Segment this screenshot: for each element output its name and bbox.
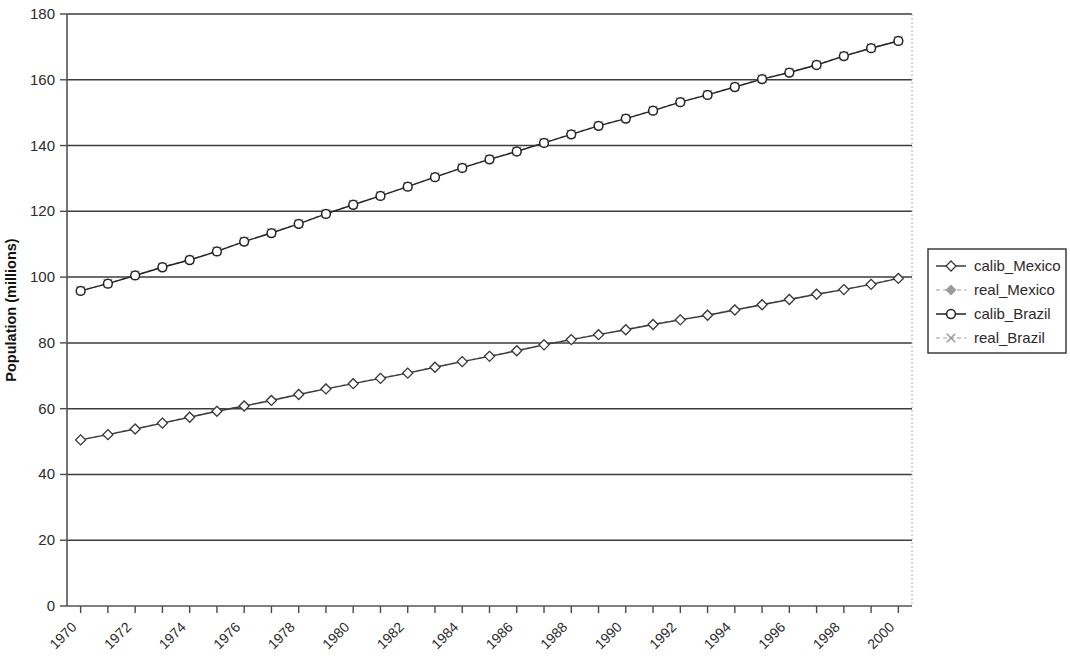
data-point-marker	[157, 418, 167, 428]
data-point-marker	[76, 435, 86, 445]
series-calib_Brazil	[76, 37, 903, 296]
x-tick-label: 1972	[101, 619, 134, 652]
x-tick-label: 1970	[46, 619, 79, 652]
data-point-marker	[212, 406, 222, 416]
data-point-marker	[839, 52, 848, 61]
data-point-marker	[649, 106, 658, 115]
data-point-marker	[784, 294, 794, 304]
data-point-marker	[430, 362, 440, 372]
y-axis-title: Population (millions)	[3, 238, 19, 382]
x-tick-label: 1994	[701, 619, 734, 652]
data-point-marker	[103, 279, 112, 288]
x-tick-label: 1992	[646, 619, 679, 652]
data-point-marker	[621, 325, 631, 335]
data-point-marker	[185, 256, 194, 265]
y-axis-ticks	[60, 14, 67, 606]
x-tick-label: 1998	[810, 619, 843, 652]
data-point-marker	[321, 384, 331, 394]
data-point-marker	[594, 330, 604, 340]
data-point-marker	[458, 164, 467, 173]
data-point-marker	[512, 346, 522, 356]
data-point-marker	[485, 155, 494, 164]
x-tick-label: 1988	[537, 619, 570, 652]
data-point-marker	[240, 237, 249, 246]
y-tick-label: 20	[38, 531, 55, 548]
data-point-marker	[376, 191, 385, 200]
data-point-marker	[867, 44, 876, 53]
data-point-marker	[403, 368, 413, 378]
data-point-marker	[567, 130, 576, 139]
legend-label: calib_Mexico	[974, 257, 1061, 274]
x-tick-label: 1980	[319, 619, 352, 652]
x-tick-label: 1990	[592, 619, 625, 652]
data-point-marker	[540, 139, 549, 148]
data-point-marker	[76, 287, 85, 296]
horizontal-gridlines	[67, 14, 912, 540]
y-tick-label: 180	[30, 5, 55, 22]
data-point-marker	[894, 37, 903, 46]
y-tick-label: 80	[38, 334, 55, 351]
legend-label: calib_Brazil	[974, 305, 1051, 322]
data-point-marker	[403, 182, 412, 191]
data-point-marker	[322, 210, 331, 219]
data-point-marker	[703, 310, 713, 320]
data-point-marker	[348, 379, 358, 389]
data-point-marker	[648, 319, 658, 329]
series-line	[81, 41, 899, 291]
legend-label: real_Mexico	[974, 281, 1055, 298]
data-point-marker	[294, 390, 304, 400]
data-point-marker	[866, 279, 876, 289]
data-point-marker	[130, 424, 140, 434]
y-axis-tick-labels: 020406080100120140160180	[30, 5, 55, 614]
y-tick-label: 120	[30, 202, 55, 219]
data-point-marker	[266, 395, 276, 405]
x-tick-label: 1986	[483, 619, 516, 652]
data-point-marker	[539, 340, 549, 350]
data-point-marker	[675, 315, 685, 325]
data-point-marker	[158, 263, 167, 272]
series-calib_Mexico	[76, 273, 904, 444]
data-point-marker	[485, 351, 495, 361]
x-tick-label: 1996	[755, 619, 788, 652]
data-point-marker	[594, 121, 603, 130]
data-point-marker	[457, 357, 467, 367]
data-point-marker	[213, 247, 222, 256]
y-tick-label: 40	[38, 465, 55, 482]
data-point-marker	[758, 75, 767, 84]
x-tick-label: 1978	[264, 619, 297, 652]
data-point-marker	[267, 229, 276, 238]
chart-canvas: 020406080100120140160180 197019721974197…	[0, 0, 1070, 667]
series-line	[81, 41, 899, 291]
x-axis-tick-labels: 1970197219741976197819801982198419861988…	[46, 619, 897, 652]
data-point-marker	[103, 430, 113, 440]
data-point-marker	[185, 412, 195, 422]
y-tick-label: 100	[30, 268, 55, 285]
data-point-marker	[349, 200, 358, 209]
y-tick-label: 60	[38, 400, 55, 417]
data-point-marker	[839, 285, 849, 295]
x-tick-label: 1974	[155, 619, 188, 652]
x-tick-label: 1984	[428, 619, 461, 652]
data-point-marker	[431, 173, 440, 182]
data-point-marker	[239, 401, 249, 411]
chart-legend: calib_Mexicoreal_Mexicocalib_Brazilreal_…	[928, 249, 1066, 353]
data-point-marker	[893, 273, 903, 283]
data-point-marker	[947, 310, 956, 319]
data-point-marker	[375, 373, 385, 383]
data-point-marker	[730, 83, 739, 92]
data-point-marker	[131, 271, 140, 280]
data-point-marker	[730, 305, 740, 315]
x-tick-label: 1976	[210, 619, 243, 652]
x-axis-ticks	[81, 606, 899, 613]
data-point-marker	[294, 219, 303, 228]
x-tick-label: 2000	[864, 619, 897, 652]
data-point-marker	[785, 68, 794, 77]
y-tick-label: 0	[47, 597, 55, 614]
legend-label: real_Brazil	[974, 329, 1045, 346]
population-line-chart: 020406080100120140160180 197019721974197…	[0, 0, 1070, 667]
y-tick-label: 140	[30, 137, 55, 154]
data-point-marker	[676, 98, 685, 107]
x-tick-label: 1982	[374, 619, 407, 652]
data-point-marker	[757, 300, 767, 310]
data-point-marker	[812, 61, 821, 70]
